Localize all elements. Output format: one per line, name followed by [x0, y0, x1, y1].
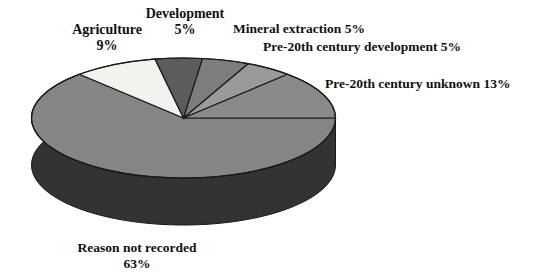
- pie-chart-figure: Agriculture 9% Development 5% Mineral ex…: [0, 0, 537, 280]
- slice-label-reason-not-recorded-pct: 63%: [52, 256, 222, 272]
- slice-label-reason-not-recorded-name: Reason not recorded: [78, 240, 197, 255]
- slice-label-agriculture-pct: 9%: [55, 38, 159, 54]
- slice-label-development-name: Development: [146, 6, 225, 21]
- slice-label-pre20-unknown: Pre-20th century unknown 13%: [325, 76, 510, 92]
- slice-label-mineral-extraction: Mineral extraction 5%: [233, 21, 365, 37]
- slice-label-development-pct: 5%: [130, 22, 240, 38]
- slice-label-development: Development 5%: [130, 6, 240, 38]
- slice-label-reason-not-recorded: Reason not recorded 63%: [52, 240, 222, 271]
- pie-slices: [31, 58, 335, 178]
- slice-label-pre20-development: Pre-20th century development 5%: [263, 39, 461, 55]
